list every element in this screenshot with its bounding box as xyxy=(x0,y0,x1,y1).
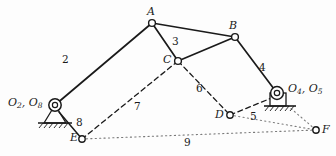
joint-A xyxy=(149,20,156,27)
label-joint-A: A xyxy=(147,6,155,17)
link-7-segment xyxy=(82,61,178,139)
label-ground-pivot-left: O2, O8 xyxy=(8,97,43,109)
label-link-7: 7 xyxy=(134,101,141,112)
o4-sep: , xyxy=(302,82,309,95)
joint-E xyxy=(79,136,85,142)
link-9-segment xyxy=(82,130,316,139)
kinematic-linkage-diagram: A B C D E F O2, O8 O4, O5 2 3 4 5 6 7 8 … xyxy=(0,0,336,156)
label-joint-D: D xyxy=(215,109,224,120)
label-joint-E: E xyxy=(70,132,78,143)
label-joint-C: C xyxy=(163,54,171,65)
link-3-segment-BC xyxy=(178,37,235,61)
o4-base: O xyxy=(288,82,297,95)
link-6-segment xyxy=(178,61,230,115)
label-link-8: 8 xyxy=(76,117,83,128)
label-ground-pivot-right: O4, O5 xyxy=(288,83,323,95)
o5-sub: 5 xyxy=(318,87,323,96)
dotted-D-F-segment xyxy=(230,115,316,130)
joint-F xyxy=(313,127,319,133)
label-joint-F: F xyxy=(322,124,330,135)
o2-base: O xyxy=(8,96,17,109)
label-link-9: 9 xyxy=(184,137,191,148)
link-2-segment xyxy=(55,23,152,105)
joint-B xyxy=(232,34,239,41)
link-3-segment-AB xyxy=(152,23,235,37)
joint-C xyxy=(175,58,182,65)
label-link-3: 3 xyxy=(172,36,179,47)
label-link-5: 5 xyxy=(250,111,257,122)
o2-sep: , xyxy=(22,96,29,109)
ground-pivot-left xyxy=(38,99,72,128)
linkage-canvas xyxy=(0,0,336,156)
joint-D xyxy=(227,112,233,118)
label-link-2: 2 xyxy=(62,54,69,65)
link-4-segment xyxy=(235,37,277,93)
o8-sub: 8 xyxy=(38,101,43,110)
label-link-4: 4 xyxy=(259,62,266,73)
o5-base: O xyxy=(309,82,318,95)
label-joint-B: B xyxy=(229,20,237,31)
label-link-6: 6 xyxy=(196,83,203,94)
o8-base: O xyxy=(29,96,38,109)
